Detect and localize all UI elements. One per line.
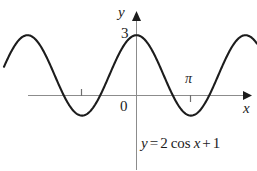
equation-annotation: y=2cosx+1	[141, 136, 220, 151]
equation-constant: 1	[213, 135, 221, 151]
cosine-curve	[4, 35, 257, 115]
origin-label: 0	[120, 99, 128, 114]
equation-plus: +	[200, 135, 212, 151]
cosine-graph-figure: y x 3 0 π y=2cosx+1	[0, 0, 257, 171]
y-axis-label: y	[118, 5, 125, 20]
equation-coefficient: 2	[160, 135, 168, 151]
equation-lhs: y	[141, 135, 148, 151]
x-axis-label: x	[243, 101, 250, 116]
equation-function: cos	[168, 135, 191, 151]
x-axis-arrowhead	[243, 91, 252, 100]
y-tick-label-3: 3	[121, 26, 129, 41]
x-tick-label-pi: π	[185, 72, 192, 86]
equation-variable: x	[191, 135, 201, 151]
equation-equals: =	[148, 135, 160, 151]
y-axis-arrowhead	[132, 11, 141, 21]
